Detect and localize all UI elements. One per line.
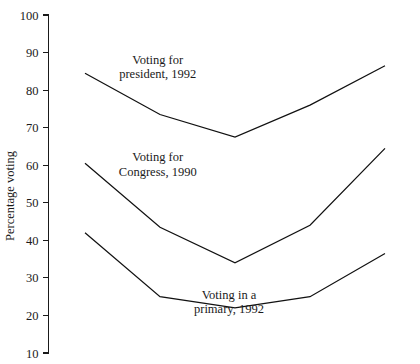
y-tick-label-80: 80 bbox=[26, 84, 39, 98]
y-tick-label-20: 20 bbox=[26, 309, 39, 323]
president-annotation: Voting forpresident, 1992 bbox=[119, 53, 196, 81]
congress-annotation-line-1: Congress, 1990 bbox=[119, 165, 197, 179]
chart-canvas: 100908070605040302010 Percentage voting … bbox=[0, 0, 420, 364]
series-lines-group bbox=[85, 66, 385, 308]
y-tick-label-30: 30 bbox=[26, 271, 39, 285]
line-chart-percentage-voting: 100908070605040302010 Percentage voting … bbox=[0, 0, 420, 364]
president-annotation-line-1: president, 1992 bbox=[119, 67, 196, 81]
primary-annotation-line-0: Voting in a bbox=[202, 288, 257, 302]
president-annotation-line-0: Voting for bbox=[132, 53, 184, 67]
y-tick-label-70: 70 bbox=[26, 121, 39, 135]
primary-annotation-line-1: primary, 1992 bbox=[194, 302, 264, 316]
y-tick-label-50: 50 bbox=[26, 196, 39, 210]
y-axis-tick-marks bbox=[43, 15, 49, 353]
y-tick-label-100: 100 bbox=[20, 9, 39, 23]
y-tick-label-10: 10 bbox=[26, 347, 39, 361]
congress-annotation: Voting forCongress, 1990 bbox=[119, 150, 197, 179]
congress-annotation-line-0: Voting for bbox=[132, 150, 184, 164]
y-tick-label-90: 90 bbox=[26, 46, 39, 60]
y-tick-label-40: 40 bbox=[26, 234, 39, 248]
series-annotations-group: Voting forpresident, 1992Voting forCongr… bbox=[119, 53, 264, 316]
y-axis-title: Percentage voting bbox=[3, 150, 17, 241]
y-axis-tick-labels: 100908070605040302010 bbox=[20, 9, 39, 361]
primary-annotation: Voting in aprimary, 1992 bbox=[194, 288, 264, 317]
y-tick-label-60: 60 bbox=[26, 159, 39, 173]
